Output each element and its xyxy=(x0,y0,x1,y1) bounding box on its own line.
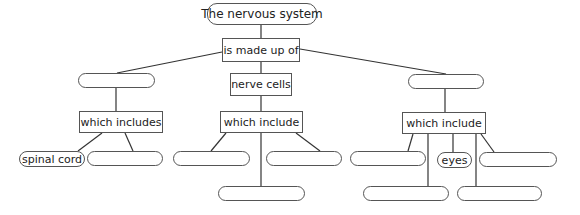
middle-blank-child-2[interactable] xyxy=(218,186,305,201)
nerve-cells-node: nerve cells xyxy=(230,73,292,96)
left-relation-which-includes: which includes xyxy=(79,111,163,133)
eyes-node: eyes xyxy=(437,152,472,168)
root-node-nervous-system: The nervous system xyxy=(207,3,317,25)
left-blank-child[interactable] xyxy=(87,151,163,166)
right-blank-child-1[interactable] xyxy=(350,151,426,166)
right-blank-node[interactable] xyxy=(408,74,484,89)
middle-blank-child-1[interactable] xyxy=(173,151,250,166)
right-blank-child-5[interactable] xyxy=(457,186,542,201)
right-blank-child-3[interactable] xyxy=(479,152,557,167)
connector-lines xyxy=(0,0,580,215)
middle-relation-which-include: which include xyxy=(220,111,303,133)
middle-blank-child-3[interactable] xyxy=(266,151,342,166)
right-relation-which-include: which include xyxy=(402,112,486,134)
left-blank-node[interactable] xyxy=(78,73,155,88)
right-blank-child-4[interactable] xyxy=(363,186,449,201)
relation-is-made-up-of: is made up of xyxy=(222,38,300,62)
spinal-cord-node: spinal cord xyxy=(19,151,85,167)
concept-map: The nervous system is made up of which i… xyxy=(0,0,580,215)
